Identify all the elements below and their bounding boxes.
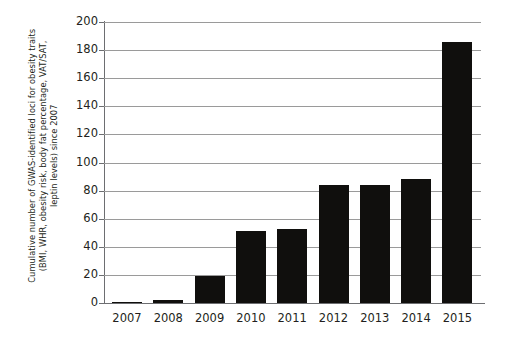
y-axis-tick: [99, 22, 104, 23]
x-axis-line: [104, 303, 485, 304]
gridline: [104, 163, 471, 164]
y-axis-tick-right: [471, 275, 481, 276]
y-axis-tick-labels: 020406080100120140160180200: [60, 22, 98, 303]
y-axis-tick-label: 140: [64, 100, 98, 112]
gridline: [104, 134, 471, 135]
bar-2009: [195, 276, 225, 303]
y-axis-tick-right: [471, 106, 481, 107]
y-axis-tick-right: [471, 219, 481, 220]
y-axis-tick: [99, 78, 104, 79]
bar-2012: [319, 185, 349, 303]
y-axis-tick: [99, 134, 104, 135]
bar-2007: [112, 302, 142, 304]
y-axis-tick-label: 80: [64, 185, 98, 197]
y-axis-tick-label: 100: [64, 157, 98, 169]
y-axis-tick-label: 40: [64, 241, 98, 253]
y-axis-tick: [99, 163, 104, 164]
y-axis-tick: [99, 50, 104, 51]
y-axis-tick-right: [471, 247, 481, 248]
y-axis-tick-label: 120: [64, 128, 98, 140]
y-axis-tick: [99, 303, 104, 304]
bar-2010: [236, 231, 266, 303]
gridline: [104, 106, 471, 107]
y-axis-tick-right: [471, 50, 481, 51]
x-axis-tick-label-2015: 2015: [430, 312, 484, 324]
y-axis-tick: [99, 247, 104, 248]
y-axis-tick: [99, 219, 104, 220]
y-axis-tick-right: [471, 22, 481, 23]
y-axis-tick-label: 0: [64, 297, 98, 309]
y-axis-tick-right: [471, 163, 481, 164]
bar-2008: [153, 300, 183, 303]
y-axis-tick-label: 160: [64, 72, 98, 84]
y-axis-tick: [99, 191, 104, 192]
y-axis-tick-right: [471, 134, 481, 135]
bar-2011: [277, 229, 307, 303]
y-axis-title-line-1: Cumulative number of GWAS-identified loc…: [27, 29, 38, 283]
bar-chart: Cumulative number of GWAS-identified loc…: [0, 0, 526, 346]
bar-2013: [360, 185, 390, 303]
bar-2014: [401, 179, 431, 303]
y-axis-tick-label: 200: [64, 16, 98, 28]
gridline: [104, 50, 471, 51]
y-axis-tick-right: [471, 191, 481, 192]
y-axis-tick-right: [471, 78, 481, 79]
y-axis-tick-label: 60: [64, 213, 98, 225]
bar-2015: [442, 42, 472, 303]
plot-area: [104, 22, 481, 303]
y-axis-tick-label: 180: [64, 44, 98, 56]
y-axis-tick: [99, 106, 104, 107]
y-axis-tick: [99, 275, 104, 276]
gridline: [104, 22, 471, 23]
y-axis-tick-label: 20: [64, 269, 98, 281]
y-axis-title-line-2: (BMI, WHR, obesity risk, body fat percen…: [38, 29, 49, 283]
gridline: [104, 78, 471, 79]
